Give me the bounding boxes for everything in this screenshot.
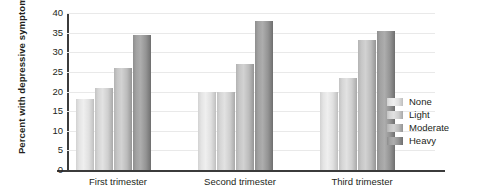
bar-chart: Percent with depressive symptoms 40 35 3… <box>0 0 482 196</box>
bar-light-first-trimester <box>95 88 113 170</box>
y-tick-label: 40 <box>38 8 63 18</box>
x-tick-label-first-trimester: First trimester <box>48 176 188 187</box>
y-tick-label: 35 <box>38 28 63 38</box>
x-axis-line <box>57 170 445 172</box>
x-tick-label-third-trimester: Third trimester <box>292 176 432 187</box>
legend-swatch-heavy <box>387 137 403 145</box>
bar-none-first-trimester <box>76 99 94 170</box>
bar-none-third-trimester <box>320 92 338 171</box>
legend-swatch-light <box>387 111 403 119</box>
legend-item-none: None <box>387 95 449 108</box>
y-tick-label: 5 <box>38 145 63 155</box>
y-tick-label: 20 <box>38 87 63 97</box>
legend-swatch-none <box>387 98 403 106</box>
legend-label-heavy: Heavy <box>409 135 436 146</box>
legend-label-light: Light <box>409 109 430 120</box>
legend: None Light Moderate Heavy <box>387 95 449 147</box>
legend-item-heavy: Heavy <box>387 134 449 147</box>
bar-moderate-second-trimester <box>236 64 254 170</box>
y-tick-label: 30 <box>38 47 63 57</box>
bar-group-second-trimester <box>198 13 282 170</box>
legend-item-moderate: Moderate <box>387 121 449 134</box>
bar-none-second-trimester <box>198 92 216 171</box>
bar-light-second-trimester <box>217 92 235 171</box>
bar-heavy-second-trimester <box>255 21 273 170</box>
bar-group-first-trimester <box>76 13 160 170</box>
bar-moderate-first-trimester <box>114 68 132 170</box>
y-tick-label: 10 <box>38 126 63 136</box>
legend-label-moderate: Moderate <box>409 122 449 133</box>
y-axis-title: Percent with depressive symptoms <box>16 0 30 158</box>
bar-heavy-first-trimester <box>133 35 151 170</box>
legend-swatch-moderate <box>387 124 403 132</box>
y-tick-label: 15 <box>38 106 63 116</box>
bar-moderate-third-trimester <box>358 40 376 170</box>
bar-light-third-trimester <box>339 78 357 170</box>
legend-label-none: None <box>409 96 432 107</box>
y-tick-label: 25 <box>38 67 63 77</box>
legend-item-light: Light <box>387 108 449 121</box>
x-tick-label-second-trimester: Second trimester <box>170 176 310 187</box>
plot-area <box>67 13 435 170</box>
